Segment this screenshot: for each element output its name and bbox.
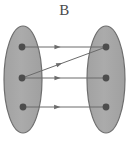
arrow-left1-to-right1-head-icon: [54, 45, 60, 49]
left-node-3[interactable]: [20, 104, 27, 111]
arrow-left2-to-right1-head-icon: [56, 61, 63, 67]
set-mapping-diagram: B: [0, 0, 129, 143]
mapping-canvas: [0, 0, 129, 143]
left-node-2[interactable]: [19, 75, 26, 82]
right-node-3[interactable]: [103, 104, 110, 111]
right-node-2[interactable]: [103, 75, 110, 82]
arrow-left3-to-right3-head-icon: [54, 105, 60, 109]
arrow-left2-to-right2-head-icon: [54, 76, 60, 80]
right-node-1[interactable]: [103, 44, 110, 51]
left-node-1[interactable]: [19, 44, 26, 51]
